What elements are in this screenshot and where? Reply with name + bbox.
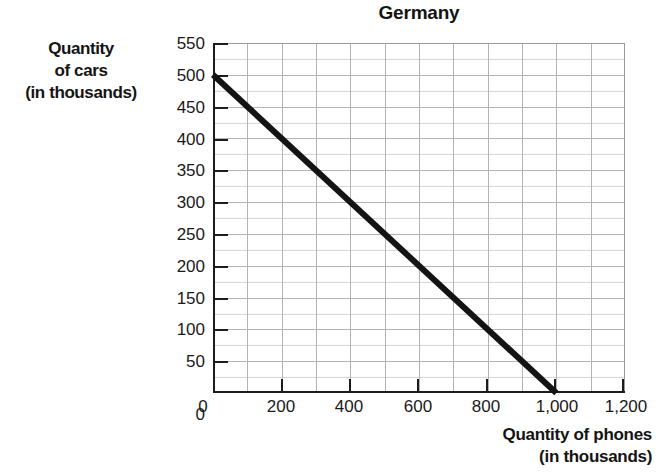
x-tick-label-1200: 1,200 — [605, 398, 648, 415]
data-line-ppf — [213, 75, 556, 393]
chart-title: Germany — [213, 2, 625, 24]
x-tick-label-400: 400 — [335, 398, 363, 415]
y-tick-label-100: 100 — [149, 321, 205, 338]
chart-figure: Germany Quantity of cars (in thousands) … — [0, 0, 658, 472]
y-tick-label-200: 200 — [149, 258, 205, 275]
x-tick-label-0: 0 — [198, 398, 207, 415]
x-tick-label-600: 600 — [404, 398, 432, 415]
y-tick-label-550: 550 — [149, 35, 205, 52]
y-tick-label-450: 450 — [149, 99, 205, 116]
data-line-svg — [213, 43, 625, 393]
x-axis-title-line-1: Quantity of phones — [232, 424, 652, 446]
x-tick-label-1000: 1,000 — [536, 398, 579, 415]
y-tick-label-300: 300 — [149, 194, 205, 211]
y-tick-label-50: 50 — [149, 353, 205, 370]
y-axis-title: Quantity of cars (in thousands) — [2, 38, 160, 103]
y-tick-label-400: 400 — [149, 131, 205, 148]
y-tick-label-150: 150 — [149, 290, 205, 307]
y-axis-title-line-3: (in thousands) — [2, 82, 160, 104]
plot-area — [213, 43, 625, 393]
x-axis-tick-labels: 0 200 400 600 800 1,000 1,200 — [0, 398, 658, 424]
x-tick-label-800: 800 — [472, 398, 500, 415]
x-axis-title: Quantity of phones (in thousands) — [232, 424, 652, 468]
y-axis-title-line-2: of cars — [2, 60, 160, 82]
x-tick-label-200: 200 — [267, 398, 295, 415]
y-tick-label-350: 350 — [149, 162, 205, 179]
y-tick-label-250: 250 — [149, 226, 205, 243]
x-axis-title-line-2: (in thousands) — [232, 446, 652, 468]
y-tick-label-500: 500 — [149, 67, 205, 84]
y-axis-title-line-1: Quantity — [2, 38, 160, 60]
